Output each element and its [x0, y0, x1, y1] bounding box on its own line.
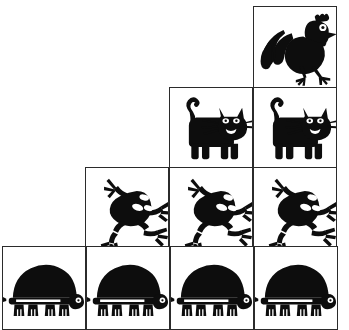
- rooster-icon: [254, 7, 336, 89]
- turtle-icon: [87, 247, 169, 329]
- pictogram-cell-cat: [253, 87, 337, 171]
- frog-icon: [170, 168, 252, 250]
- pictogram-cell-turtle: [170, 246, 254, 330]
- pictogram-cell-turtle: [2, 246, 86, 330]
- pictogram-cell-rooster: [253, 6, 337, 90]
- turtle-icon: [255, 247, 337, 329]
- pictogram-cell-frog: [169, 167, 253, 251]
- turtle-icon: [3, 247, 85, 329]
- frog-icon: [254, 168, 336, 250]
- cat-icon: [170, 88, 252, 170]
- pictogram-cell-frog: [253, 167, 337, 251]
- pictogram-cell-turtle: [86, 246, 170, 330]
- cat-icon: [254, 88, 336, 170]
- turtle-icon: [171, 247, 253, 329]
- pictogram-cell-cat: [169, 87, 253, 171]
- pictogram-cell-frog: [85, 167, 169, 251]
- pictogram-cell-turtle: [254, 246, 338, 330]
- frog-icon: [86, 168, 168, 250]
